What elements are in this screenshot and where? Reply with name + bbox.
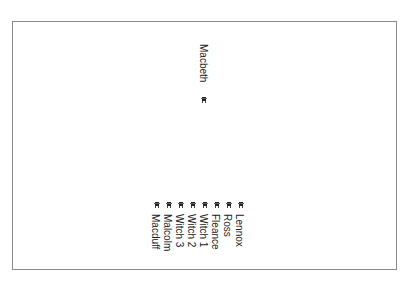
character-icon	[226, 202, 232, 208]
character-icon	[154, 202, 160, 208]
node-label: Witch 1	[198, 214, 209, 247]
character-icon	[166, 202, 172, 208]
character-icon	[202, 202, 208, 208]
node-label: Ross	[222, 214, 233, 237]
character-icon	[214, 202, 220, 208]
character-icon	[190, 202, 196, 208]
character-icon	[178, 202, 184, 208]
character-icon	[201, 97, 207, 103]
node-label: Macduff	[150, 214, 161, 249]
node-label: Witch 3	[174, 214, 185, 247]
node-label: Malcolm	[162, 214, 173, 251]
node-label: Fleance	[210, 214, 221, 250]
character-icon	[238, 202, 244, 208]
node-label: Witch 2	[186, 214, 197, 247]
node-label: Lennox	[234, 214, 245, 247]
node-label: Macbeth	[198, 44, 209, 82]
